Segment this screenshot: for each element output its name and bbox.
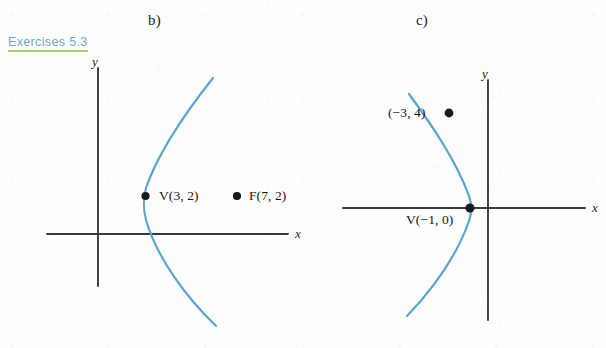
focus-point-b xyxy=(233,192,241,200)
focus-label-b: F(7, 2) xyxy=(249,188,286,204)
y-axis-label-c: y xyxy=(482,66,488,82)
figure-c-canvas xyxy=(330,0,606,348)
curve-point-label-c: (−3, 4) xyxy=(388,105,426,121)
x-axis-label-b: x xyxy=(295,226,301,242)
vertex-label-b: V(3, 2) xyxy=(159,188,199,204)
figure-c: y x (−3, 4) V(−1, 0) xyxy=(330,0,606,348)
vertex-point-b xyxy=(141,192,149,200)
x-axis-label-c: x xyxy=(592,200,598,216)
figure-b-canvas xyxy=(0,0,310,348)
figure-page: Exercises 5.3 b) c) y x V(3, 2) F(7, 2) xyxy=(0,0,606,348)
vertex-point-c xyxy=(465,203,474,212)
vertex-label-c: V(−1, 0) xyxy=(406,212,453,228)
curve-point-c xyxy=(445,109,454,118)
figure-b: y x V(3, 2) F(7, 2) xyxy=(0,0,310,348)
parabola-curve-c xyxy=(407,94,471,316)
y-axis-label-b: y xyxy=(92,54,98,70)
